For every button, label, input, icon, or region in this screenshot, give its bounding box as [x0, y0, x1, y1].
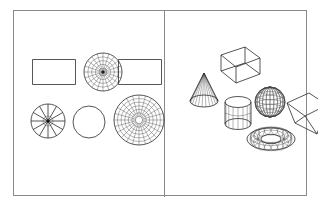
rectangle-outline: [118, 59, 162, 85]
panel-three-dimensional-primitives: [165, 11, 308, 197]
figure-root: [0, 0, 318, 209]
figure-frame: [13, 10, 307, 196]
wireframe-wedge-prism: [283, 89, 318, 139]
panel-two-dimensional-primitives: [14, 11, 164, 197]
circle-outline: [70, 103, 108, 141]
radial-mesh-disk-large: [112, 93, 166, 147]
radial-spoke-disk: [26, 99, 70, 143]
wireframe-sphere: [253, 85, 287, 119]
rectangle-outline: [32, 59, 76, 85]
